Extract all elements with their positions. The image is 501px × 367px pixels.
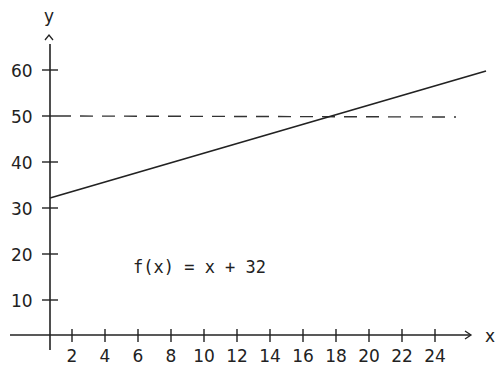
x-tick-label: 20	[358, 346, 380, 366]
x-tick-label: 6	[133, 346, 144, 366]
x-tick-label: 4	[100, 346, 111, 366]
reference-line-y50	[58, 116, 456, 117]
x-tick-label: 14	[259, 346, 281, 366]
x-tick-label: 16	[292, 346, 314, 366]
y-tick-label: 10	[11, 291, 33, 311]
function-annotation: f(x) = x + 32	[133, 257, 266, 277]
y-tick-label: 60	[11, 61, 33, 81]
y-axis-label: y	[44, 6, 54, 26]
y-ticks: 60 50 40 30 20 10	[11, 61, 58, 311]
y-tick-label: 40	[11, 153, 33, 173]
function-line	[50, 71, 486, 198]
y-tick-label: 50	[11, 107, 33, 127]
x-tick-label: 12	[226, 346, 248, 366]
x-tick-label: 2	[67, 346, 78, 366]
y-tick-label: 20	[11, 245, 33, 265]
y-tick-label: 30	[11, 199, 33, 219]
x-tick-label: 18	[325, 346, 347, 366]
chart: y x 60 50 40 30 20 10 2 4 6 8 10	[0, 0, 501, 367]
x-tick-label: 24	[424, 346, 446, 366]
y-axis-arrow-icon	[45, 35, 53, 40]
x-tick-label: 22	[391, 346, 413, 366]
x-axis-label: x	[485, 326, 495, 346]
x-tick-label: 10	[193, 346, 215, 366]
x-tick-label: 8	[166, 346, 177, 366]
